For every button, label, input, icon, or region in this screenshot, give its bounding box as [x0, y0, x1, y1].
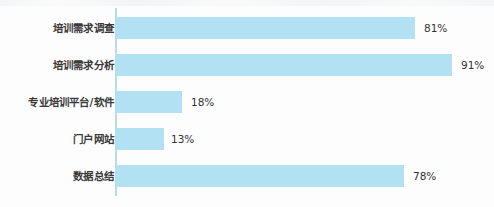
- bar-segment: [116, 91, 182, 113]
- category-label: 培训需求分析: [53, 54, 114, 76]
- bar-value-label: 81%: [424, 17, 447, 39]
- bar-value-label: 78%: [413, 165, 436, 187]
- plot-area: 培训需求调查 81% 培训需求分析 91% 专业培训平台/软件 18% 门户网站…: [0, 0, 494, 207]
- horizontal-bar-chart: 培训需求调查 81% 培训需求分析 91% 专业培训平台/软件 18% 门户网站…: [0, 0, 494, 207]
- bar-row: 培训需求调查 81%: [0, 17, 494, 39]
- category-label: 专业培训平台/软件: [28, 91, 114, 113]
- bar-segment: [116, 165, 404, 187]
- bar-value-label: 91%: [461, 54, 484, 76]
- bar-value-label: 13%: [171, 128, 194, 150]
- bar-row: 数据总结 78%: [0, 165, 494, 187]
- bar-row: 培训需求分析 91%: [0, 54, 494, 76]
- bar-segment: [116, 128, 164, 150]
- bar-row: 门户网站 13%: [0, 128, 494, 150]
- category-label: 门户网站: [73, 128, 114, 150]
- category-label: 数据总结: [73, 165, 114, 187]
- bar-value-label: 18%: [191, 91, 214, 113]
- bar-segment: [116, 17, 415, 39]
- bar-row: 专业培训平台/软件 18%: [0, 91, 494, 113]
- bar-segment: [116, 54, 452, 76]
- category-label: 培训需求调查: [53, 17, 114, 39]
